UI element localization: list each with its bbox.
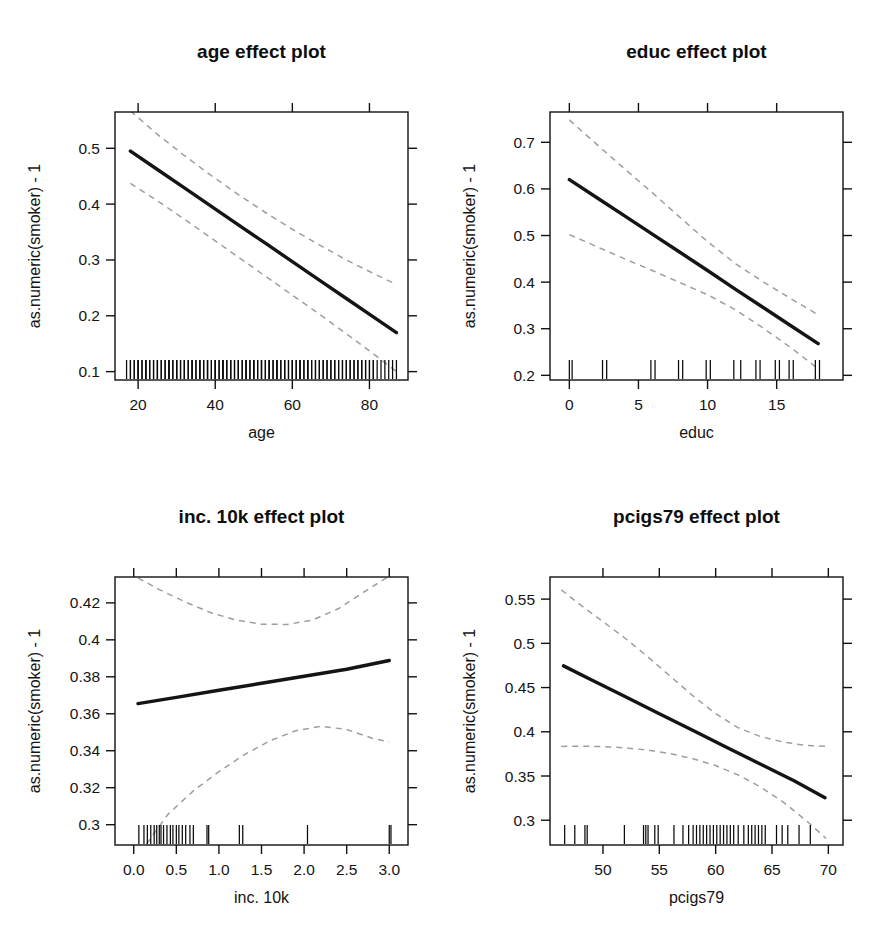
x-axis-top-ticks <box>603 568 828 577</box>
x-tick-label: 20 <box>130 396 148 413</box>
rug-plot <box>139 825 391 844</box>
x-axis-top-ticks <box>134 568 390 577</box>
plot-canvas: pcigs79 effect plotas.numeric(smoker) - … <box>435 465 869 930</box>
x-tick-label: 65 <box>763 861 780 878</box>
y-tick-label: 0.2 <box>513 367 535 384</box>
plot-data <box>130 111 396 372</box>
y-tick-label: 0.45 <box>505 679 535 696</box>
y-tick-label: 0.4 <box>78 631 100 648</box>
plot-frame <box>115 112 408 380</box>
confidence-band-line <box>561 746 826 838</box>
plot-data <box>569 120 818 369</box>
y-tick-label: 0.38 <box>70 668 100 685</box>
y-tick-label: 0.34 <box>70 742 101 759</box>
x-axis: 051015 <box>565 380 785 413</box>
x-axis-title: age <box>248 424 275 441</box>
x-tick-label: 60 <box>707 861 725 878</box>
plot-frame <box>550 577 843 845</box>
effect-plot-panel: educ effect plotas.numeric(smoker) - 1ed… <box>435 0 869 465</box>
fit-line <box>130 151 396 332</box>
x-axis: 5055606570 <box>594 845 837 878</box>
y-tick-label: 0.6 <box>513 180 535 197</box>
y-axis-title: as.numeric(smoker) - 1 <box>26 629 43 794</box>
y-tick-label: 0.5 <box>513 635 535 652</box>
x-tick-label: 1.5 <box>251 861 273 878</box>
fit-line <box>564 666 825 798</box>
x-axis: 0.00.51.01.52.02.53.0 <box>123 845 400 878</box>
plot-title: pcigs79 effect plot <box>613 506 780 527</box>
plot-data <box>561 590 828 839</box>
x-axis: 20406080 <box>130 380 379 413</box>
y-axis-right-ticks <box>843 142 852 375</box>
confidence-band-line <box>561 590 828 747</box>
y-axis-title: as.numeric(smoker) - 1 <box>461 164 478 329</box>
x-axis-top-ticks <box>569 103 776 112</box>
plot-canvas: educ effect plotas.numeric(smoker) - 1ed… <box>435 0 869 465</box>
y-tick-label: 0.42 <box>70 594 100 611</box>
y-tick-label: 0.1 <box>78 363 100 380</box>
x-tick-label: 2.0 <box>293 861 315 878</box>
x-tick-label: 1.0 <box>208 861 230 878</box>
y-tick-label: 0.4 <box>78 196 100 213</box>
y-tick-label: 0.5 <box>78 140 100 157</box>
y-tick-label: 0.55 <box>505 591 535 608</box>
confidence-band-line <box>130 111 396 285</box>
rug-plot <box>569 360 819 379</box>
y-axis-right-ticks <box>843 599 852 820</box>
plot-frame <box>115 577 408 845</box>
y-axis: 0.30.320.340.360.380.40.42 <box>70 594 115 833</box>
x-tick-label: 60 <box>284 396 302 413</box>
confidence-band-line <box>569 235 818 369</box>
y-tick-label: 0.3 <box>513 320 535 337</box>
y-axis: 0.10.20.30.40.5 <box>78 140 115 380</box>
x-tick-label: 80 <box>361 396 379 413</box>
y-tick-label: 0.3 <box>78 251 100 268</box>
x-tick-label: 70 <box>820 861 838 878</box>
x-tick-label: 50 <box>594 861 612 878</box>
y-tick-label: 0.35 <box>505 768 535 785</box>
y-tick-label: 0.2 <box>78 307 100 324</box>
y-tick-label: 0.32 <box>70 779 100 796</box>
rug-plot <box>127 360 397 379</box>
x-tick-label: 3.0 <box>378 861 400 878</box>
plot-title: educ effect plot <box>626 41 767 62</box>
x-tick-label: 5 <box>634 396 643 413</box>
y-tick-label: 0.36 <box>70 705 100 722</box>
y-axis: 0.20.30.40.50.60.7 <box>513 134 550 384</box>
x-axis-title: pcigs79 <box>669 889 724 906</box>
x-tick-label: 2.5 <box>336 861 358 878</box>
y-tick-label: 0.7 <box>513 134 535 151</box>
y-axis-title: as.numeric(smoker) - 1 <box>461 629 478 794</box>
x-tick-label: 40 <box>207 396 225 413</box>
y-axis-title: as.numeric(smoker) - 1 <box>26 164 43 329</box>
x-tick-label: 15 <box>768 396 785 413</box>
x-tick-label: 0.5 <box>166 861 188 878</box>
x-tick-label: 55 <box>651 861 668 878</box>
fit-line <box>138 661 389 704</box>
effect-plots-figure: age effect plotas.numeric(smoker) - 1age… <box>0 0 869 930</box>
y-axis-right-ticks <box>408 148 417 371</box>
x-tick-label: 0 <box>565 396 574 413</box>
y-tick-label: 0.5 <box>513 227 535 244</box>
y-axis-right-ticks <box>408 603 417 825</box>
y-tick-label: 0.3 <box>513 812 535 829</box>
fit-line <box>569 180 818 344</box>
y-tick-label: 0.4 <box>513 274 535 291</box>
confidence-band-line <box>147 726 390 844</box>
y-axis: 0.30.350.40.450.50.55 <box>505 591 550 829</box>
x-tick-label: 10 <box>699 396 717 413</box>
effect-plot-panel: pcigs79 effect plotas.numeric(smoker) - … <box>435 465 869 930</box>
rug-plot <box>565 825 811 844</box>
y-tick-label: 0.3 <box>78 816 100 833</box>
y-tick-label: 0.4 <box>513 723 535 740</box>
x-tick-label: 0.0 <box>123 861 145 878</box>
x-axis-title: inc. 10k <box>234 889 290 906</box>
plot-canvas: inc. 10k effect plotas.numeric(smoker) -… <box>0 465 434 930</box>
effect-plot-panel: inc. 10k effect plotas.numeric(smoker) -… <box>0 465 434 930</box>
confidence-band-line <box>138 576 389 624</box>
x-axis-title: educ <box>679 424 714 441</box>
effect-plot-panel: age effect plotas.numeric(smoker) - 1age… <box>0 0 434 465</box>
plot-title: inc. 10k effect plot <box>179 506 345 527</box>
plot-title: age effect plot <box>197 41 326 62</box>
plot-data <box>138 576 389 844</box>
